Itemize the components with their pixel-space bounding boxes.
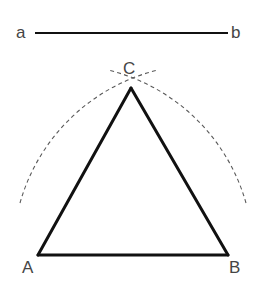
triangle-side-BC xyxy=(131,88,228,255)
arc-centered-at-B xyxy=(20,70,158,203)
vertex-a-label: A xyxy=(22,259,33,276)
triangle-side-AC xyxy=(38,88,131,255)
segment-start-label: a xyxy=(16,24,25,41)
geometry-figure: a b A B C xyxy=(0,0,264,294)
segment-end-label: b xyxy=(231,24,240,41)
vertex-b-label: B xyxy=(229,259,240,276)
vertex-c-label: C xyxy=(123,60,135,77)
geometry-canvas xyxy=(0,0,264,294)
